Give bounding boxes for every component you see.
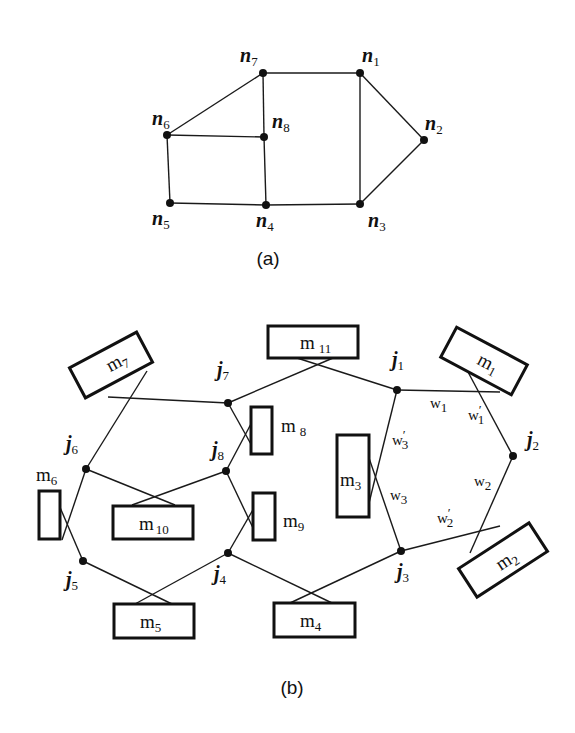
module-m10: m10 — [113, 506, 193, 539]
edge-n5-n4 — [170, 203, 266, 205]
label-n8: n8 — [272, 110, 290, 135]
edge-n2-n3 — [360, 140, 424, 204]
caption-b: (b) — [280, 677, 303, 698]
svg-text:m6: m6 — [36, 464, 58, 488]
edge-n8-n4 — [264, 137, 266, 205]
label-w1-prime: w′1 — [468, 402, 484, 427]
wire-j7-m8 — [228, 403, 252, 446]
label-j8: j8 — [209, 438, 224, 463]
edge-n6-n8 — [167, 135, 264, 137]
label-n4: n4 — [256, 209, 274, 234]
label-w3: w3 — [390, 487, 407, 507]
edge-n7-n8 — [263, 73, 264, 137]
junction-j5 — [79, 557, 87, 565]
module-m9: m9 — [253, 493, 304, 540]
edge-n1-n2 — [360, 73, 424, 140]
junction-j1 — [393, 386, 401, 394]
node-n6 — [163, 131, 171, 139]
figure-b-junction-labels: j7 j1 j2 j6 j8 j5 j4 j3 — [63, 348, 539, 593]
label-j5: j5 — [63, 568, 78, 593]
wire-m8-j8 — [226, 422, 252, 471]
edge-n4-n3 — [266, 204, 360, 205]
wire-m4-j4 — [228, 553, 332, 603]
figure-b-modules: m11 m7 m1 m2 m3 m8 — [36, 326, 547, 638]
junction-j3 — [397, 547, 405, 555]
label-n2: n2 — [425, 112, 443, 137]
module-m8: m8 — [251, 407, 306, 454]
figure-a-graph: n7 n1 n6 n8 n2 n5 n4 n3 (a) — [152, 44, 443, 269]
node-n3 — [356, 200, 364, 208]
module-m11: m11 — [268, 326, 358, 358]
module-m3: m3 — [337, 435, 369, 517]
wire-m6-j6 — [62, 469, 86, 540]
svg-text:m8: m8 — [281, 415, 306, 439]
node-n5 — [166, 199, 174, 207]
junction-j4 — [224, 549, 232, 557]
label-w2-prime: w′2 — [437, 505, 453, 530]
label-n7: n7 — [240, 44, 258, 69]
module-m7: m7 — [69, 332, 152, 398]
junction-j7 — [224, 399, 232, 407]
module-m2: m2 — [459, 523, 548, 597]
label-j6: j6 — [63, 432, 79, 457]
wire-m11-j1 — [297, 358, 397, 390]
wire-j8-m9 — [226, 471, 254, 530]
label-j2: j2 — [524, 428, 539, 453]
node-n1 — [356, 69, 364, 77]
module-m5: m5 — [114, 604, 194, 638]
node-n7 — [259, 69, 267, 77]
label-j4: j4 — [211, 562, 227, 587]
label-j1: j1 — [389, 348, 404, 373]
caption-a: (a) — [256, 248, 279, 269]
label-n5: n5 — [152, 207, 170, 232]
figure-b-graph: m11 m7 m1 m2 m3 m8 — [36, 326, 547, 698]
junction-j6 — [82, 465, 90, 473]
figure-b-wire-labels: w1 w′1 w2 w′2 w′3 w3 — [390, 395, 491, 530]
module-m4: m4 — [274, 603, 355, 637]
wire-m3-j3 — [369, 458, 401, 551]
wire-m10-j8 — [132, 471, 226, 505]
figure-a-edges — [167, 73, 424, 205]
svg-text:m9: m9 — [283, 510, 304, 534]
edge-n6-n5 — [167, 135, 170, 203]
junction-j8 — [222, 467, 230, 475]
wire-m7-j7 — [108, 397, 228, 403]
wire-j6-m10 — [86, 469, 175, 505]
label-j3: j3 — [394, 560, 409, 585]
label-n6: n6 — [152, 107, 170, 132]
label-n3: n3 — [368, 209, 386, 234]
wire-j1-m1 — [397, 390, 500, 392]
module-m6: m6 — [36, 464, 60, 539]
wire-m9-j4 — [228, 508, 254, 553]
figure-a-nodes — [163, 69, 428, 209]
figure-b-wires — [59, 358, 513, 604]
node-n4 — [262, 201, 270, 209]
junction-j2 — [509, 452, 517, 460]
figure-canvas: n7 n1 n6 n8 n2 n5 n4 n3 (a) — [0, 0, 575, 733]
label-w1: w1 — [430, 395, 447, 415]
node-n8 — [260, 133, 268, 141]
label-j7: j7 — [214, 358, 230, 383]
label-w2: w2 — [474, 473, 491, 493]
module-m1: m1 — [441, 327, 528, 395]
label-n1: n1 — [362, 44, 380, 69]
node-n2 — [420, 136, 428, 144]
wire-j3-m4 — [290, 551, 401, 603]
edge-n7-n6 — [167, 73, 263, 135]
wire-m5-j5 — [83, 561, 172, 604]
label-w3-prime: w′3 — [392, 427, 408, 452]
